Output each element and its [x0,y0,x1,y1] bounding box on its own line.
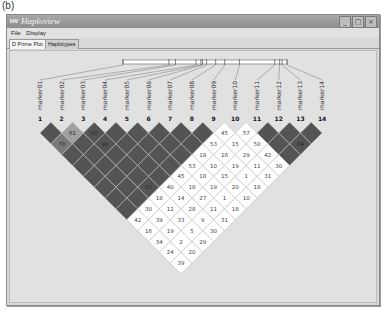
menu-bar: File Display [7,28,379,38]
marker-name-label[interactable]: marker07 [166,81,173,110]
marker-number-label: 14 [318,115,326,122]
ld-value-label: 31 [221,217,228,223]
marker-connector-line [282,65,300,80]
ld-value-label: 16 [145,228,152,234]
close-button[interactable]: × [365,16,377,28]
ld-value-label: 20 [232,184,239,190]
marker-connector-line [279,65,280,80]
ld-value-label: 12 [167,206,174,212]
tab-haplotypes[interactable]: Haplotypes [45,39,79,49]
marker-connector-line [83,65,175,80]
ld-value-label: 84 [297,141,304,147]
marker-name-label[interactable]: marker09 [210,81,217,110]
marker-number-label: 13 [296,115,304,122]
ld-value-label: 19 [232,163,239,169]
ld-value-label: 29 [199,239,206,245]
ld-value-label: 24 [167,249,174,255]
marker-number-label: 6 [146,115,150,122]
ld-plot: marker011marker022marker033marker044mark… [10,51,376,303]
marker-number-label: 9 [212,115,216,122]
menu-file[interactable]: File [11,28,21,38]
ld-value-label: 45 [221,130,228,136]
ld-value-label: 45 [178,173,185,179]
marker-connector-line [40,65,123,80]
ld-value-label: 57 [243,130,250,136]
marker-number-label: 5 [125,115,129,122]
marker-number-label: 2 [60,115,64,122]
window-controls: _ □ × [339,16,377,28]
ld-value-label: 28 [188,206,195,212]
ld-value-label: 33 [178,217,185,223]
ld-value-label: 15 [221,173,228,179]
ld-value-label: 18 [199,173,206,179]
marker-number-label: 7 [168,115,172,122]
marker-number-label: 10 [231,115,239,122]
ld-value-label: 83 [145,184,152,190]
marker-name-label[interactable]: marker11 [253,81,260,110]
ld-value-label: 1 [223,195,227,201]
ld-value-label: 39 [178,260,185,266]
marker-name-label[interactable]: marker01 [36,81,43,110]
marker-name-label[interactable]: marker14 [318,81,325,110]
ld-value-label: 92 [91,130,98,136]
marker-connector-line [105,65,196,80]
marker-name-label[interactable]: marker04 [101,81,108,110]
ld-value-label: 9 [201,217,205,223]
ld-value-label: 11 [210,206,217,212]
marker-connector-line [235,65,239,80]
window-title: Haploview [21,16,60,26]
marker-name-label[interactable]: marker02 [58,81,65,110]
marker-name-label[interactable]: marker06 [145,81,152,110]
ld-triangle: 6192455778925315508418182942531019113045… [40,122,322,274]
ld-value-label: 18 [156,195,163,201]
ld-value-label: 18 [232,206,239,212]
minimize-button[interactable]: _ [339,16,351,28]
ld-value-label: 42 [134,217,141,223]
ld-value-label: 10 [210,163,217,169]
ld-value-label: 78 [58,141,65,147]
maximize-button[interactable]: □ [352,16,364,28]
marker-name-label[interactable]: marker10 [231,81,238,110]
ld-value-label: 15 [232,141,239,147]
ld-value-label: 61 [69,130,76,136]
haploview-window: HV Haploview _ □ × File Display D Prime … [6,14,380,306]
ld-value-label: 29 [243,152,250,158]
ld-value-label: 11 [254,163,261,169]
ld-value-label: 19 [167,228,174,234]
marker-connector-line [287,65,322,80]
ld-value-label: 20 [188,249,195,255]
ld-value-label: 30 [145,206,152,212]
marker-number-label: 12 [275,115,283,122]
ld-value-label: 31 [264,173,271,179]
ld-value-label: 1 [244,173,248,179]
menu-display[interactable]: Display [26,28,46,38]
app-icon: HV [10,18,18,24]
ld-value-label: 10 [243,195,250,201]
ld-value-label: 30 [275,163,282,169]
marker-name-label[interactable]: marker12 [275,81,282,110]
tab-d-prime-plot[interactable]: D Prime Plot [9,39,46,49]
title-bar[interactable]: HV Haploview _ □ × [7,15,379,28]
ld-value-label: 27 [199,195,206,201]
ld-value-label: 50 [254,141,261,147]
ld-value-label: 42 [264,152,271,158]
ld-value-label: 14 [178,195,185,201]
ld-value-label: 2 [179,239,183,245]
marker-connector-line [62,65,169,80]
marker-connector-line [127,65,201,80]
marker-name-label[interactable]: marker13 [296,81,303,110]
marker-name-label[interactable]: marker03 [79,81,86,110]
ld-plot-panel: marker011marker022marker033marker044mark… [9,50,377,303]
ld-value-label: 53 [210,141,217,147]
ld-value-label: 5 [190,228,194,234]
figure-label: (b) [2,0,14,11]
ld-value-label: 30 [210,228,217,234]
marker-number-label: 8 [190,115,194,122]
marker-name-label[interactable]: marker05 [123,81,130,110]
marker-connector-line [214,65,225,80]
ld-value-label: 92 [102,141,109,147]
ld-value-label: 39 [156,217,163,223]
marker-name-label[interactable]: marker08 [188,81,195,110]
ld-value-label: 18 [188,184,195,190]
marker-number-label: 3 [81,115,85,122]
